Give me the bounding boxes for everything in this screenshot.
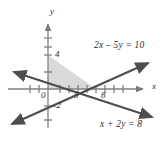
tick-label-y-4: 4: [55, 49, 60, 59]
y-axis-label: y: [50, 6, 54, 16]
tick-label-origin: 0: [41, 90, 46, 100]
line-label-x-plus-2y: x + 2y = 8: [100, 119, 142, 129]
graph-figure: y x 0 5 8 4 –2 2x – 5y = 10 x + 2y = 8: [0, 0, 168, 142]
line-x-plus-2y-equals-8: [14, 72, 152, 117]
shaded-region: [48, 55, 96, 89]
line-label-2x-minus-5y: 2x – 5y = 10: [94, 40, 145, 50]
tick-label-y-neg-2: –2: [52, 100, 61, 110]
line-2x-minus-5y-equals-10: [12, 63, 148, 124]
x-axis-label: x: [152, 81, 156, 91]
tick-label-x-5: 5: [74, 90, 79, 100]
tick-label-x-8: 8: [101, 90, 106, 100]
coordinate-plane-svg: [0, 0, 168, 142]
